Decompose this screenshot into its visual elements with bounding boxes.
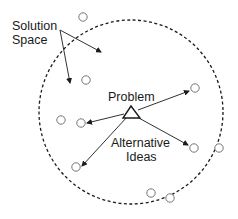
solution-space-label-line1: Solution (12, 19, 57, 33)
idea-node-circle (57, 116, 65, 124)
idea-node-circle (191, 84, 199, 92)
idea-node-circle (215, 144, 223, 152)
alternative-ideas-label-line2: Ideas (126, 150, 157, 164)
idea-node-circle (82, 76, 90, 84)
idea-node-circle (147, 189, 155, 197)
solution-space-arrow-1 (60, 30, 101, 52)
idea-arrow-left (87, 114, 124, 123)
solution-space-label-line2: Space (12, 33, 47, 47)
idea-node-circle (190, 144, 198, 152)
idea-node-circle (166, 194, 174, 202)
solution-space-arrow-2 (60, 30, 70, 83)
idea-node-circle (79, 13, 87, 21)
alternative-ideas-label-line1: Alternative (111, 136, 170, 150)
problem-triangle-icon (123, 106, 140, 118)
problem-label: Problem (108, 90, 155, 104)
idea-node-circle (72, 163, 80, 171)
solution-space-diagram: Solution Space Problem Alternative Ideas (0, 0, 238, 219)
idea-node-circle (77, 119, 85, 127)
